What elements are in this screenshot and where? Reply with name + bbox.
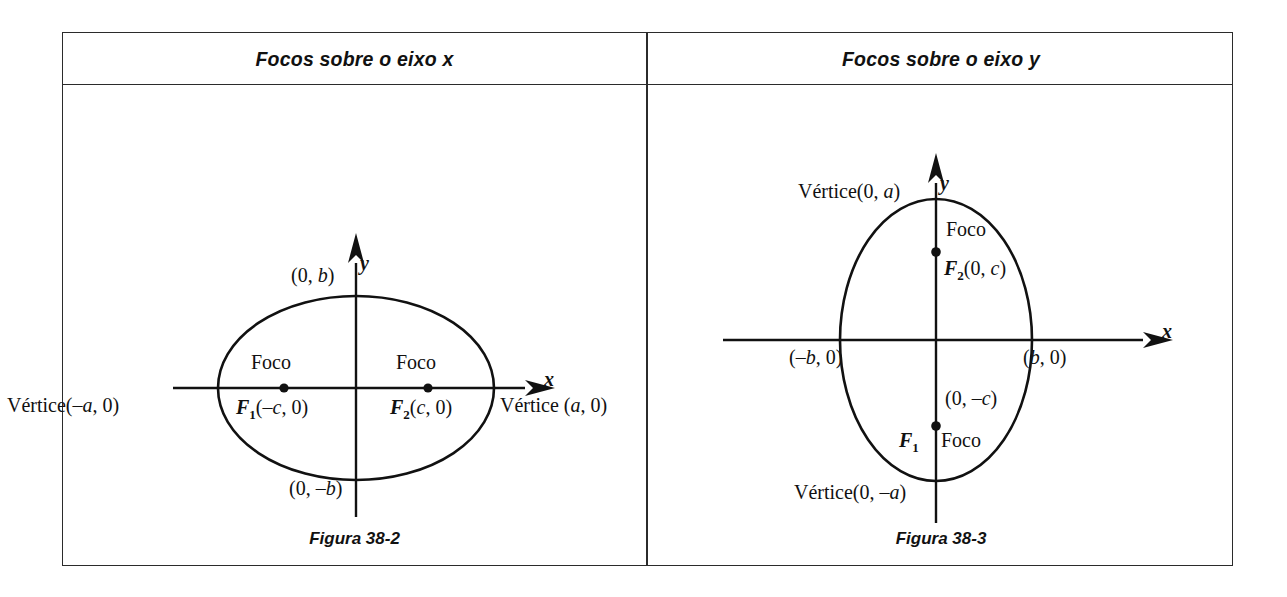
header-cell-focos-eixo-y: Focos sobre o eixo y (648, 33, 1234, 85)
label-focus-right-point: F2(c, 0) (390, 397, 452, 421)
focus-point-f2 (423, 383, 432, 392)
focus-point-f1 (279, 383, 288, 392)
label-y-axis: y (360, 253, 369, 273)
figura-38-3-drawing (648, 85, 1234, 567)
label-x-axis: x (544, 369, 554, 389)
label-focus-left-point: F1(–c, 0) (236, 397, 308, 421)
label-covertex-left: (–b, 0) (789, 347, 842, 367)
focus-point-f2 (931, 247, 941, 257)
label-covertex-right: (b, 0) (1023, 347, 1066, 367)
label-vertex-right: Vértice (a, 0) (500, 395, 607, 415)
label-x-axis: x (1162, 321, 1172, 341)
label-foco-left: Foco (251, 352, 291, 372)
focus-point-f1 (931, 421, 941, 431)
figura-38-2-drawing (63, 85, 646, 567)
label-vertex-bottom: Vértice(0, –a) (794, 482, 906, 502)
label-focus-upper-point: F2(0, c) (944, 258, 1006, 282)
label-vertex-top: Vértice(0, a) (798, 181, 900, 201)
label-focus-lower-coord: (0, –c) (945, 388, 997, 408)
label-y-axis: y (940, 173, 949, 193)
label-covertex-bottom: (0, –b) (289, 478, 342, 498)
caption-figura-38-3: Figura 38-3 (648, 529, 1234, 549)
figure-cell-38-2: Vértice(–a, 0) Vértice (a, 0) (0, b) (0,… (63, 85, 646, 567)
caption-figura-38-2: Figura 38-2 (63, 529, 646, 549)
label-foco-upper: Foco (946, 219, 986, 239)
header-cell-focos-eixo-x: Focos sobre o eixo x (63, 33, 646, 85)
label-foco-lower: Foco (941, 430, 981, 450)
label-foco-right: Foco (396, 352, 436, 372)
label-focus-lower-point: F1 (899, 430, 919, 454)
label-covertex-top: (0, b) (291, 265, 334, 285)
label-vertex-left: Vértice(–a, 0) (7, 395, 119, 415)
figure-cell-38-3: Vértice(0, a) Vértice(0, –a) (–b, 0) (b,… (648, 85, 1234, 567)
figure-table: Focos sobre o eixo x Focos sobre o eixo … (62, 32, 1233, 566)
